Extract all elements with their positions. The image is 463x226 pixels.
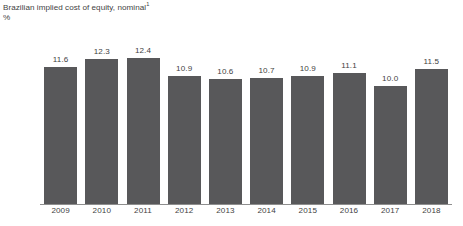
x-axis-line <box>40 204 452 205</box>
bar-group: 11.5 <box>415 30 448 204</box>
x-axis-tick-label: 2012 <box>164 206 205 215</box>
bar <box>374 86 407 204</box>
bar <box>209 79 242 204</box>
chart-title-footnote-marker: 1 <box>146 1 149 7</box>
x-axis-tick-labels: 2009201020112012201320142015201620172018 <box>40 206 452 222</box>
x-axis-tick-label: 2011 <box>122 206 163 215</box>
bar-group: 12.3 <box>85 30 118 204</box>
bar <box>127 58 160 204</box>
chart-subtitle: % <box>3 13 10 23</box>
bar-group: 11.1 <box>333 30 366 204</box>
x-axis-tick-label: 2009 <box>40 206 81 215</box>
x-axis-tick-label: 2018 <box>411 206 452 215</box>
chart-figure: Brazilian implied cost of equity, nomina… <box>0 0 463 226</box>
x-axis-tick-label: 2010 <box>81 206 122 215</box>
bar-value-label: 10.0 <box>382 74 398 83</box>
bar-group: 10.9 <box>168 30 201 204</box>
bar-group: 10.0 <box>374 30 407 204</box>
bar-group: 12.4 <box>127 30 160 204</box>
bar <box>168 76 201 204</box>
x-axis-tick-label: 2015 <box>287 206 328 215</box>
bar-value-label: 11.5 <box>424 57 440 66</box>
bar-value-label: 10.6 <box>217 67 233 76</box>
bar-value-label: 10.9 <box>300 64 316 73</box>
bar-group: 10.7 <box>250 30 283 204</box>
bar-value-label: 11.1 <box>341 61 357 70</box>
bar-value-label: 12.3 <box>94 47 110 56</box>
bar <box>44 67 77 204</box>
bar-group: 10.9 <box>291 30 324 204</box>
bar <box>415 69 448 204</box>
bar-value-label: 12.4 <box>135 46 151 55</box>
x-axis-tick-label: 2016 <box>328 206 369 215</box>
x-axis-tick-label: 2017 <box>370 206 411 215</box>
chart-title: Brazilian implied cost of equity, nomina… <box>3 3 149 13</box>
bar-group: 10.6 <box>209 30 242 204</box>
bar <box>250 78 283 204</box>
chart-title-text: Brazilian implied cost of equity, nomina… <box>3 3 146 12</box>
x-axis-tick-label: 2013 <box>205 206 246 215</box>
x-axis-tick-label: 2014 <box>246 206 287 215</box>
bar-value-label: 10.9 <box>176 64 192 73</box>
bar <box>85 59 118 204</box>
bar-value-label: 11.6 <box>53 55 69 64</box>
bar <box>333 73 366 204</box>
bar-group: 11.6 <box>44 30 77 204</box>
bar-value-label: 10.7 <box>259 66 275 75</box>
plot-area: 11.612.312.410.910.610.710.911.110.011.5 <box>40 30 452 204</box>
bar <box>291 76 324 204</box>
